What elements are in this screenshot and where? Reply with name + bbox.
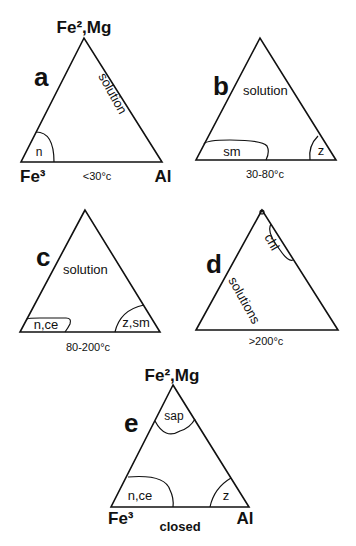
- field-label-solutions: solutions: [225, 274, 263, 327]
- field-label-n-ce: n,ce: [34, 317, 59, 332]
- panel-e: Fe²,Mg e sap n,ce z Fe³ closed Al: [108, 366, 254, 534]
- temperature-label: 80-200°c: [66, 341, 111, 353]
- temperature-label: 30-80°c: [246, 168, 285, 180]
- panel-letter: d: [206, 249, 222, 279]
- temperature-label: >200°c: [249, 335, 284, 347]
- field-label-solution: solution: [243, 83, 288, 98]
- panel-letter: b: [213, 71, 229, 101]
- field-label-solution: solution: [95, 70, 130, 116]
- field-label-z: z: [223, 488, 230, 503]
- vertex-label-right: Al: [237, 509, 254, 528]
- ternary-triangle: [21, 38, 162, 162]
- vertex-label-right: Al: [155, 167, 172, 186]
- phase-field-boundary-z: [310, 136, 318, 160]
- panel-letter: c: [36, 242, 50, 272]
- temperature-label: <30°c: [83, 170, 112, 182]
- panel-b: b solution sm z 30-80°c: [196, 38, 336, 180]
- panel-c: c solution n,ce z,sm 80-200°c: [20, 210, 160, 353]
- field-label-solution: solution: [63, 262, 108, 277]
- field-label-n: n: [36, 145, 43, 159]
- field-label-sap: sap: [164, 409, 184, 423]
- field-label-n-ce: n,ce: [128, 488, 153, 503]
- condition-label: closed: [159, 519, 200, 534]
- field-label-sm: sm: [223, 144, 240, 159]
- vertex-label-top: Fe²,Mg: [57, 18, 112, 37]
- vertex-label-left: Fe³: [20, 167, 46, 186]
- vertex-label-left: Fe³: [108, 509, 134, 528]
- panel-letter: a: [34, 62, 49, 92]
- panel-d: d chl solutions >200°c: [196, 210, 338, 347]
- field-label-z-sm: z,sm: [122, 315, 149, 330]
- panel-a: Fe²,Mg a solution n Fe³ <30°c Al: [20, 18, 172, 186]
- ternary-diagram-figure: Fe²,Mg a solution n Fe³ <30°c Al b solut…: [0, 0, 356, 546]
- vertex-label-top: Fe²,Mg: [145, 366, 200, 385]
- panel-letter: e: [124, 408, 138, 438]
- field-label-z: z: [318, 143, 325, 158]
